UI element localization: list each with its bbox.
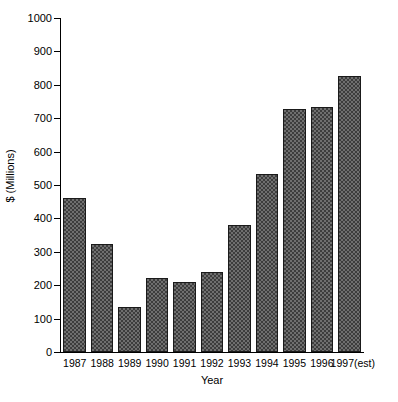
bar-slot [198,18,225,352]
x-axis-title: Year [61,374,363,386]
bar-chart-figure: $ (Millions) 010020030040050060070080090… [0,0,398,402]
x-tick-label: 1993 [226,356,253,372]
x-tick-label: 1992 [198,356,225,372]
y-tick-mark [54,85,60,86]
bar-slot [88,18,115,352]
y-tick-mark [54,218,60,219]
x-tick-label: 1997(est) [336,356,363,372]
x-axis-tick-labels: 1987198819891990199119921993199419951996… [61,356,363,372]
bar-slot [116,18,143,352]
y-tick-mark [54,51,60,52]
y-tick-label: 300 [18,246,52,257]
bar [118,307,141,352]
bar-slot [253,18,280,352]
y-tick-label: 900 [18,46,52,57]
bar [228,225,251,352]
plot-area [61,18,363,352]
y-tick-mark [54,18,60,19]
bar [63,198,86,352]
bar-slot [336,18,363,352]
y-tick-mark [54,252,60,253]
x-tick-label: 1994 [253,356,280,372]
y-axis-title-text: $ (Millions) [4,149,16,202]
x-tick-label: 1995 [281,356,308,372]
y-tick-label: 500 [18,180,52,191]
bar [173,282,196,352]
x-tick-label: 1990 [143,356,170,372]
bar-slot [143,18,170,352]
x-tick-label: 1989 [116,356,143,372]
x-tick-label: 1991 [171,356,198,372]
bar [311,107,334,352]
bar [146,278,169,352]
y-tick-label: 1000 [18,13,52,24]
bar-slot [308,18,335,352]
y-tick-mark [54,352,60,353]
bar-slot [171,18,198,352]
bar-slot [226,18,253,352]
bar [91,244,114,352]
bar-slot [281,18,308,352]
bar [201,272,224,352]
bar [256,174,279,352]
bar-slot [61,18,88,352]
y-tick-label: 0 [18,347,52,358]
y-tick-mark [54,118,60,119]
bar [283,109,306,352]
y-tick-label: 600 [18,146,52,157]
y-tick-label: 200 [18,280,52,291]
x-axis-title-text: Year [201,374,223,386]
x-axis-line [54,352,364,353]
y-tick-mark [54,185,60,186]
y-tick-mark [54,319,60,320]
y-axis-tick-labels: 01002003004005006007008009001000 [18,0,52,402]
y-tick-label: 400 [18,213,52,224]
x-tick-label: 1987 [61,356,88,372]
y-tick-label: 100 [18,313,52,324]
y-tick-label: 800 [18,79,52,90]
y-tick-label: 700 [18,113,52,124]
y-tick-mark [54,285,60,286]
bar [338,76,361,352]
y-axis-title: $ (Millions) [0,0,20,352]
x-tick-label: 1988 [88,356,115,372]
y-tick-mark [54,152,60,153]
bar-series [61,18,363,352]
